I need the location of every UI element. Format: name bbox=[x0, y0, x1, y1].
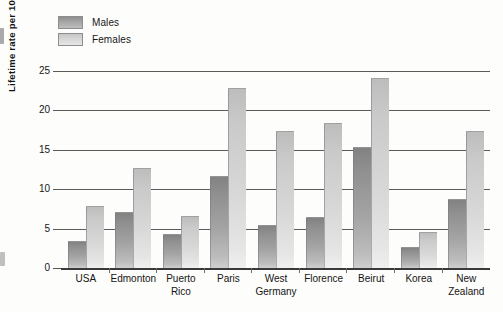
y-tick-15 bbox=[53, 150, 62, 151]
x-axis-label-west-germany: WestGermany bbox=[252, 271, 300, 309]
bar-males-west-germany bbox=[258, 225, 276, 268]
bar-males-edmonton bbox=[115, 212, 133, 268]
bar-males-usa bbox=[68, 241, 86, 268]
y-tick-25 bbox=[53, 71, 62, 72]
y-tick-label-10: 10 bbox=[24, 184, 50, 194]
bar-group bbox=[205, 71, 253, 268]
bar-groups bbox=[62, 71, 490, 268]
bar-group bbox=[62, 71, 110, 268]
legend-item-males: Males bbox=[58, 14, 131, 31]
bar-females-usa bbox=[86, 206, 104, 268]
bar-males-korea bbox=[401, 247, 419, 268]
x-axis-label-edmonton: Edmonton bbox=[110, 271, 158, 309]
x-axis-label-florence: Florence bbox=[300, 271, 348, 309]
bar-group bbox=[252, 71, 300, 268]
legend-swatch-females bbox=[58, 33, 83, 46]
bar-males-beirut bbox=[353, 147, 371, 268]
chart-legend: Males Females bbox=[58, 14, 131, 48]
plot-area: 0510152025 bbox=[62, 71, 490, 268]
x-axis-label-beirut: Beirut bbox=[347, 271, 395, 309]
bar-females-west-germany bbox=[276, 131, 294, 268]
bar-group bbox=[347, 71, 395, 268]
bar-females-florence bbox=[324, 123, 342, 268]
page-edge-artifact-lower bbox=[0, 252, 5, 266]
x-axis-label-puerto-rico: PuertoRico bbox=[157, 271, 205, 309]
bar-males-puerto-rico bbox=[163, 234, 181, 268]
y-tick-label-0: 0 bbox=[24, 263, 50, 273]
bar-females-puerto-rico bbox=[181, 216, 199, 268]
y-tick-label-25: 25 bbox=[24, 66, 50, 76]
bar-group bbox=[395, 71, 443, 268]
legend-item-females: Females bbox=[58, 31, 131, 48]
legend-label-males: Males bbox=[92, 17, 119, 28]
bar-females-new-zealand bbox=[466, 131, 484, 268]
bar-males-paris bbox=[210, 176, 228, 268]
x-axis-label-usa: USA bbox=[62, 271, 110, 309]
x-axis-label-korea: Korea bbox=[395, 271, 443, 309]
bar-females-edmonton bbox=[133, 168, 151, 268]
bar-females-paris bbox=[228, 88, 246, 268]
chart-figure: Males Females Lifetime rate per 100 peop… bbox=[0, 0, 503, 312]
bar-males-new-zealand bbox=[448, 199, 466, 268]
page-edge-artifact bbox=[0, 28, 4, 44]
bar-females-beirut bbox=[371, 78, 389, 268]
x-axis-labels: USAEdmontonPuertoRicoParisWestGermanyFlo… bbox=[62, 271, 490, 309]
y-tick-label-20: 20 bbox=[24, 105, 50, 115]
y-tick-label-15: 15 bbox=[24, 145, 50, 155]
x-axis-label-paris: Paris bbox=[205, 271, 253, 309]
y-tick-20 bbox=[53, 110, 62, 111]
bar-females-korea bbox=[419, 232, 437, 268]
x-axis-label-new-zealand: NewZealand bbox=[443, 271, 491, 309]
bar-males-florence bbox=[306, 217, 324, 268]
y-tick-label-5: 5 bbox=[24, 224, 50, 234]
y-tick-10 bbox=[53, 189, 62, 190]
bar-group bbox=[300, 71, 348, 268]
x-axis-line bbox=[61, 268, 490, 270]
legend-label-females: Females bbox=[92, 34, 131, 45]
y-tick-5 bbox=[53, 229, 62, 230]
bar-group bbox=[443, 71, 491, 268]
bar-group bbox=[157, 71, 205, 268]
bar-group bbox=[110, 71, 158, 268]
legend-swatch-males bbox=[58, 16, 83, 29]
y-axis-title: Lifetime rate per 100 people bbox=[6, 0, 17, 92]
